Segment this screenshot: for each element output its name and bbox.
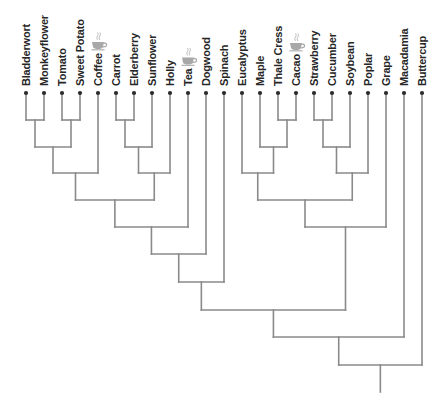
leaf-elderberry: Elderberry [128, 32, 140, 95]
leaf-dot [384, 91, 388, 95]
leaf-label: Maple [254, 56, 266, 86]
tree-leaves: BladderwortMonkeyflowerTomatoSweet Potat… [20, 14, 428, 95]
leaf-dot [276, 91, 280, 95]
leaf-label: Thale Cress [272, 26, 284, 86]
leaf-label: Tomato [56, 48, 68, 86]
coffee-cup-icon [182, 48, 197, 66]
leaf-bladderwort: Bladderwort [20, 23, 32, 95]
leaf-label: Cacao [290, 54, 302, 86]
leaf-sunflower: Sunflower [146, 34, 158, 95]
leaf-label: Monkeyflower [38, 14, 50, 86]
leaf-carrot: Carrot [110, 54, 122, 95]
leaf-grape: Grape [380, 55, 392, 95]
leaf-dot [42, 91, 46, 95]
leaf-dot [312, 91, 316, 95]
leaf-cacao: Cacao [290, 54, 302, 96]
leaf-label: Eucalyptus [236, 29, 248, 86]
coffee-cup-icon [290, 33, 305, 51]
leaf-dot [348, 91, 352, 95]
leaf-dogwood: Dogwood [200, 37, 212, 95]
leaf-tea: Tea [182, 67, 194, 95]
leaf-dot [132, 91, 136, 95]
leaf-label: Tea [182, 67, 194, 86]
leaf-dot [222, 91, 226, 95]
leaf-label: Strawberry [308, 29, 320, 86]
leaf-eucalyptus: Eucalyptus [236, 29, 248, 95]
leaf-cucumber: Cucumber [326, 32, 338, 95]
leaf-dot [258, 91, 262, 95]
phylogenetic-tree: BladderwortMonkeyflowerTomatoSweet Potat… [0, 0, 444, 408]
leaf-dot [78, 91, 82, 95]
leaf-holly: Holly [164, 59, 176, 95]
leaf-label: Grape [380, 55, 392, 86]
leaf-tomato: Tomato [56, 48, 68, 95]
leaf-label: Soybean [344, 41, 356, 86]
tree-edges [26, 93, 422, 392]
leaf-dot [402, 91, 406, 95]
leaf-dot [186, 91, 190, 95]
leaf-coffee: Coffee [92, 53, 104, 95]
leaf-sweet-potato: Sweet Potato [74, 19, 86, 95]
leaf-dot [60, 91, 64, 95]
leaf-dot [168, 91, 172, 95]
leaf-dot [240, 91, 244, 95]
leaf-spinach: Spinach [218, 44, 230, 95]
leaf-dot [150, 91, 154, 95]
leaf-dot [24, 91, 28, 95]
leaf-strawberry: Strawberry [308, 29, 320, 95]
leaf-label: Sunflower [146, 34, 158, 86]
leaf-label: Coffee [92, 53, 104, 86]
leaf-label: Cucumber [326, 32, 338, 86]
leaf-dot [420, 91, 424, 95]
leaf-dot [294, 91, 298, 95]
leaf-dot [330, 91, 334, 95]
leaf-label: Poplar [362, 52, 374, 86]
leaf-dot [366, 91, 370, 95]
leaf-label: Elderberry [128, 32, 140, 86]
leaf-label: Carrot [110, 54, 122, 86]
leaf-label: Sweet Potato [74, 19, 86, 86]
leaf-thale-cress: Thale Cress [272, 26, 284, 95]
leaf-monkeyflower: Monkeyflower [38, 14, 50, 95]
leaf-dot [96, 91, 100, 95]
leaf-label: Bladderwort [20, 23, 32, 86]
leaf-dot [204, 91, 208, 95]
leaf-buttercup: Buttercup [416, 35, 428, 95]
leaf-label: Spinach [218, 44, 230, 86]
leaf-label: Dogwood [200, 37, 212, 86]
leaf-label: Macadamia [398, 27, 410, 86]
leaf-label: Holly [164, 59, 176, 86]
leaf-label: Buttercup [416, 35, 428, 86]
leaf-dot [114, 91, 118, 95]
leaf-poplar: Poplar [362, 52, 374, 95]
leaf-soybean: Soybean [344, 41, 356, 95]
leaf-maple: Maple [254, 56, 266, 95]
leaf-macadamia: Macadamia [398, 27, 410, 95]
coffee-cup-icon [92, 32, 107, 50]
